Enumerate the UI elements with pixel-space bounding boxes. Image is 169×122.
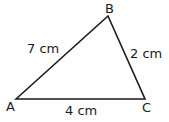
triangle-diagram: B A C 7 cm 2 cm 4 cm: [0, 0, 169, 122]
side-label-ab: 7 cm: [27, 41, 59, 56]
side-label-ac: 4 cm: [65, 103, 97, 118]
vertex-label-b: B: [105, 1, 114, 16]
vertex-label-c: C: [142, 100, 151, 115]
triangle-abc: [16, 16, 145, 99]
vertex-label-a: A: [6, 99, 15, 114]
side-label-bc: 2 cm: [130, 46, 162, 61]
